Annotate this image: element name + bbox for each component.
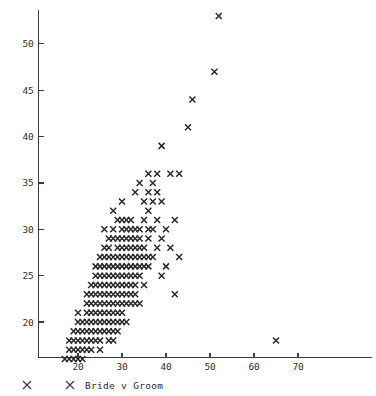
data-point-marker (145, 236, 151, 242)
y-tick-label: 50 (22, 38, 34, 49)
data-point-marker (88, 328, 94, 334)
data-point-marker (101, 254, 107, 260)
data-point-marker (137, 236, 143, 242)
data-point-marker (132, 282, 138, 288)
data-point-marker (79, 347, 85, 353)
x-axis-ticks: 203040506070 (72, 353, 304, 372)
data-point-marker (97, 328, 103, 334)
data-point-marker (163, 263, 169, 269)
data-point-marker (66, 338, 72, 344)
x-tick-label: 50 (204, 361, 216, 372)
data-point-marker (137, 273, 143, 279)
data-point-marker (115, 328, 121, 334)
data-point-marker (110, 236, 116, 242)
data-point-marker (163, 226, 169, 232)
data-point-marker (137, 226, 143, 232)
data-point-marker (185, 124, 191, 130)
data-point-marker (101, 226, 107, 232)
legend-marker-left-icon (23, 381, 31, 389)
data-point-marker (110, 338, 116, 344)
y-tick-label: 40 (22, 131, 34, 142)
data-point-marker (167, 171, 173, 177)
data-point-marker (84, 319, 90, 325)
data-point-marker (159, 236, 165, 242)
data-point-marker (119, 198, 125, 204)
y-axis-ticks: 20253035404550 (22, 38, 43, 327)
data-point-marker (132, 254, 138, 260)
data-point-marker (172, 291, 178, 297)
data-point-marker (145, 189, 151, 195)
data-point-marker (141, 217, 147, 223)
data-point-marker (159, 273, 165, 279)
data-point-marker (176, 254, 182, 260)
data-point-marker (145, 226, 151, 232)
y-tick-label: 30 (22, 224, 34, 235)
data-point-marker (216, 13, 222, 19)
data-point-marker (145, 263, 151, 269)
x-tick-label: 20 (72, 361, 84, 372)
data-point-marker (154, 245, 160, 251)
data-point-marker (106, 328, 112, 334)
data-point-marker (119, 310, 125, 316)
data-point-marker (167, 245, 173, 251)
data-point-marker (137, 180, 143, 186)
data-point-marker (106, 245, 112, 251)
data-point-marker (101, 319, 107, 325)
data-point-marker (189, 97, 195, 103)
data-point-marker (88, 347, 94, 353)
data-point-marker (123, 319, 129, 325)
data-point-marker (132, 300, 138, 306)
data-point-marker (172, 217, 178, 223)
data-point-marker (110, 208, 116, 214)
scatter-chart: 20253035404550 203040506070 Bride v Groo… (0, 0, 376, 396)
data-point-marker (154, 217, 160, 223)
data-point-marker (211, 69, 217, 75)
data-point-marker (176, 171, 182, 177)
x-tick-label: 70 (292, 361, 304, 372)
data-point-marker (115, 254, 121, 260)
data-point-marker (150, 198, 156, 204)
x-tick-label: 60 (248, 361, 260, 372)
data-point-marker (137, 245, 143, 251)
data-point-marker (141, 282, 147, 288)
data-point-marker (159, 143, 165, 149)
data-point-marker (84, 338, 90, 344)
data-point-marker (154, 171, 160, 177)
data-point-marker (150, 254, 156, 260)
y-tick-label: 25 (22, 270, 33, 281)
data-point-marker (145, 171, 151, 177)
data-point-marker (75, 310, 81, 316)
data-point-marker (93, 319, 99, 325)
y-tick-label: 45 (22, 85, 33, 96)
data-point-marker (110, 226, 116, 232)
x-tick-label: 40 (160, 361, 172, 372)
data-point-marker (97, 338, 103, 344)
legend: Bride v Groom (23, 380, 163, 391)
data-point-marker (71, 328, 77, 334)
plot-area: 20253035404550 203040506070 Bride v Groo… (0, 0, 376, 396)
data-point-marker (150, 180, 156, 186)
data-point-marker (141, 254, 147, 260)
legend-label: Bride v Groom (85, 380, 163, 391)
data-point-marker (159, 198, 165, 204)
y-tick-label: 20 (22, 317, 34, 328)
legend-marker-icon (66, 381, 74, 389)
y-tick-label: 35 (22, 177, 33, 188)
data-point-marker (273, 338, 279, 344)
data-point-marker (132, 189, 138, 195)
data-point-marker (123, 217, 129, 223)
data-point-marker (154, 189, 160, 195)
data-point-group (62, 13, 279, 362)
x-tick-label: 30 (116, 361, 128, 372)
data-point-marker (132, 291, 138, 297)
data-point-marker (128, 226, 134, 232)
data-point-marker (145, 208, 151, 214)
data-point-marker (141, 198, 147, 204)
data-point-marker (97, 347, 103, 353)
